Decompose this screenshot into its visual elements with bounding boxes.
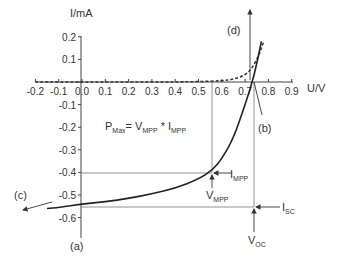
x-tick-labels: -0.2-0.10.00.10.20.30.40.50.60.70.80.9 [27, 86, 299, 97]
y-tick-label: -0.1 [59, 100, 77, 111]
impp-label: IMPP [230, 168, 249, 182]
y-tick-label: -0.6 [59, 213, 77, 224]
y-tick-label: -0.3 [59, 145, 77, 156]
x-tick-label: 0.8 [261, 86, 275, 97]
y-tick-labels: 0.20.1-0.1-0.2-0.3-0.4-0.5-0.6 [59, 32, 77, 224]
y-axis-label: I/mA [70, 7, 93, 19]
label-a: (a) [70, 240, 83, 252]
x-axis-label: U/V [307, 82, 326, 94]
illuminated-curve [47, 41, 261, 208]
x-tick-label: 0.2 [122, 86, 136, 97]
isc-label: ISC [282, 201, 295, 215]
x-tick-label: 0.9 [285, 86, 299, 97]
x-tick-label: -0.1 [50, 86, 68, 97]
y-tick-label: 0.2 [62, 32, 76, 43]
x-tick-label: 0.1 [98, 86, 112, 97]
x-tick-label: -0.2 [27, 86, 45, 97]
y-tick-label: -0.2 [59, 122, 77, 133]
label-c: (c) [14, 189, 27, 201]
x-axis [35, 79, 293, 82]
vmpp-label: VMPP [206, 189, 229, 203]
y-tick-label: 0.1 [62, 54, 76, 65]
y-tick-label: -0.4 [59, 167, 77, 178]
x-tick-label: 0.0 [75, 86, 89, 97]
guide-lines [81, 82, 254, 207]
label-d: (d) [227, 24, 240, 36]
y-tick-label: -0.5 [59, 190, 77, 201]
y-axis [78, 36, 81, 238]
x-tick-label: 0.5 [192, 86, 206, 97]
x-tick-label: 0.6 [215, 86, 229, 97]
pmax-formula: PMax= VMPP * IMPP [105, 120, 187, 134]
voc-label: VOC [248, 234, 266, 248]
iv-characteristic-chart: -0.2-0.10.00.10.20.30.40.50.60.70.80.9 0… [0, 0, 341, 262]
x-tick-label: 0.3 [145, 86, 159, 97]
label-b: (b) [258, 122, 271, 134]
x-tick-label: 0.4 [168, 86, 182, 97]
